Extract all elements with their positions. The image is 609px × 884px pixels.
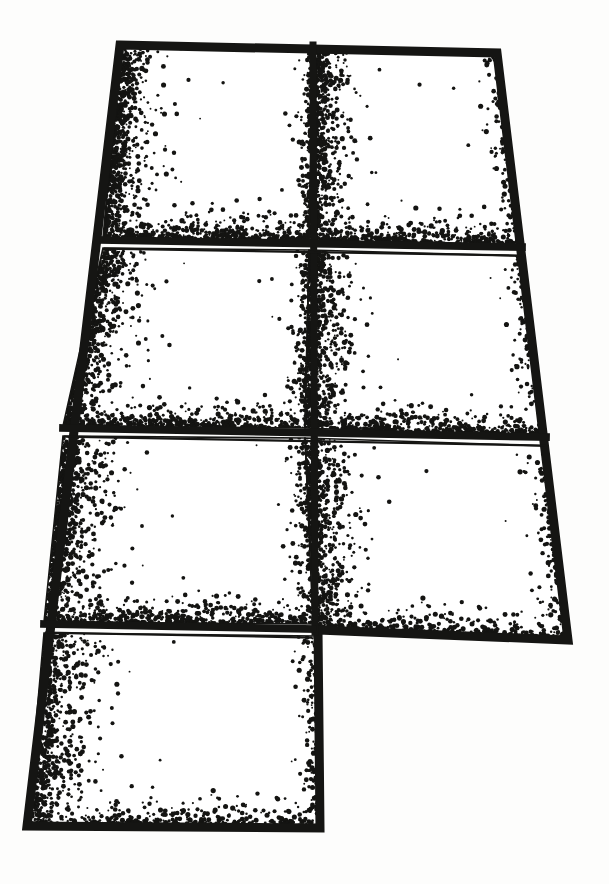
center-vertical-divider bbox=[313, 45, 315, 632]
panel-assembly-drawing bbox=[0, 0, 609, 884]
divider-row-3 bbox=[44, 624, 313, 629]
figure-root bbox=[0, 0, 609, 884]
panel-5-face bbox=[44, 436, 313, 624]
